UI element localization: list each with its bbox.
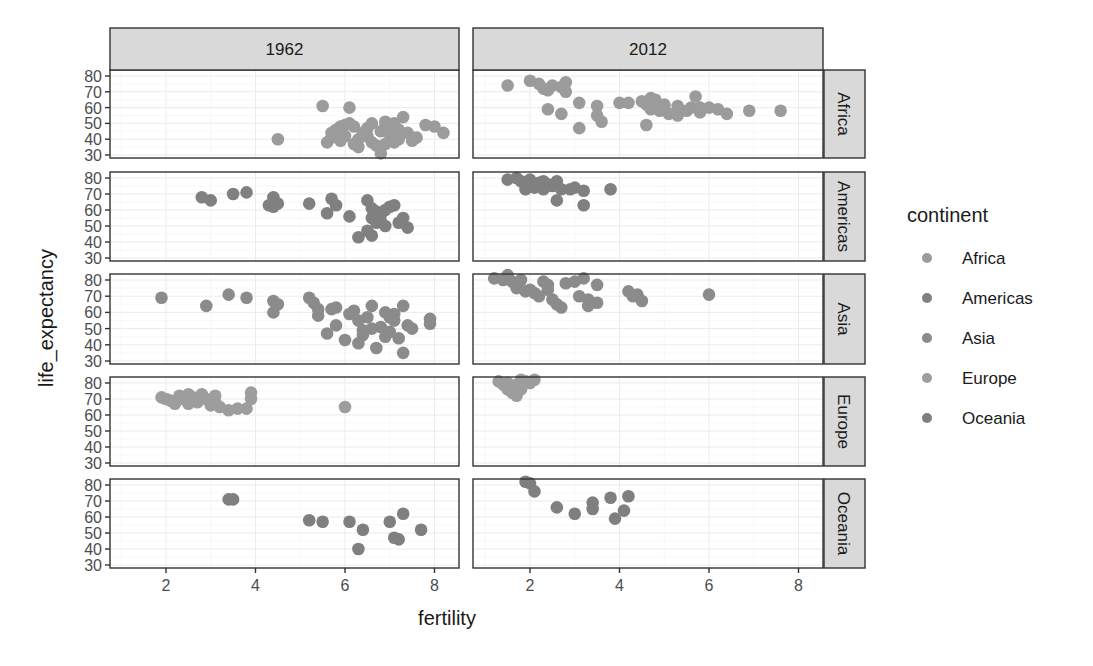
column-strip-2012: 2012 [473, 28, 823, 70]
data-point [703, 288, 716, 301]
data-point [348, 304, 361, 317]
data-point [555, 108, 568, 121]
legend-key-dot-icon [922, 293, 932, 303]
data-point [515, 383, 528, 396]
legend-item-americas: Americas [922, 289, 1033, 308]
data-point [227, 188, 240, 201]
y-tick-label: 80 [84, 68, 102, 85]
data-point [343, 516, 356, 529]
data-point [330, 301, 343, 314]
panel-1962-europe [110, 377, 459, 466]
row-strip-europe: Europe [824, 377, 865, 466]
y-tick-label: 50 [84, 423, 102, 440]
data-point [524, 283, 537, 296]
data-point [573, 97, 586, 110]
legend-item-oceania: Oceania [922, 409, 1026, 428]
y-tick-label: 80 [84, 375, 102, 392]
data-point [519, 183, 532, 196]
x-tick-label: 2 [526, 577, 535, 594]
data-point [604, 492, 617, 505]
data-point [339, 401, 352, 414]
data-point [155, 292, 168, 305]
data-point [415, 524, 428, 537]
x-axis-1962: 2468 [162, 568, 440, 594]
data-point [680, 104, 693, 117]
data-point [370, 217, 383, 230]
x-tick-label: 6 [341, 577, 350, 594]
data-point [577, 185, 590, 198]
data-point [551, 194, 564, 207]
data-point [577, 199, 590, 212]
y-tick-label: 40 [84, 439, 102, 456]
y-tick-label: 30 [84, 557, 102, 574]
y-axis-americas: 304050607080 [84, 170, 110, 267]
data-point [774, 104, 787, 117]
data-point [267, 306, 280, 319]
y-tick-label: 70 [84, 391, 102, 408]
legend-label: Africa [962, 249, 1006, 268]
panels [110, 70, 823, 568]
data-point [240, 186, 253, 199]
legend-key-dot-icon [922, 413, 932, 423]
data-point [204, 194, 217, 207]
y-tick-label: 70 [84, 84, 102, 101]
data-point [392, 332, 405, 345]
data-point [591, 279, 604, 292]
data-point [397, 508, 410, 521]
data-point [312, 309, 325, 322]
data-point [227, 493, 240, 506]
data-point [222, 288, 235, 301]
y-tick-label: 40 [84, 541, 102, 558]
data-point [330, 199, 343, 212]
data-point [622, 490, 635, 503]
data-point [622, 97, 635, 110]
y-tick-label: 60 [84, 304, 102, 321]
data-point [640, 119, 653, 132]
data-point [366, 117, 379, 130]
data-point [743, 104, 756, 117]
data-point [542, 103, 555, 116]
y-tick-label: 60 [84, 509, 102, 526]
row-strip-label: Africa [834, 92, 853, 136]
y-tick-label: 50 [84, 321, 102, 338]
data-point [537, 183, 550, 196]
data-point [303, 514, 316, 527]
data-point [240, 292, 253, 305]
data-point [410, 131, 423, 144]
data-point [397, 111, 410, 124]
faceted-scatter-chart: 19622012AfricaAmericasAsiaEuropeOceania … [0, 0, 1093, 666]
legend-key-dot-icon [922, 333, 932, 343]
data-point [542, 283, 555, 296]
y-tick-label: 70 [84, 186, 102, 203]
data-point [689, 90, 702, 103]
data-point [366, 229, 379, 242]
data-point [658, 98, 671, 111]
row-strip-americas: Americas [824, 172, 865, 261]
data-point [361, 311, 374, 324]
row-strip-label: Oceania [834, 492, 853, 556]
row-strip-oceania: Oceania [824, 479, 865, 568]
data-point [424, 317, 437, 330]
data-point [555, 301, 568, 314]
data-point [343, 101, 356, 114]
data-point [272, 133, 285, 146]
y-tick-label: 30 [84, 455, 102, 472]
data-point [392, 533, 405, 546]
data-point [204, 399, 217, 412]
y-tick-label: 50 [84, 115, 102, 132]
data-point [343, 210, 356, 223]
x-tick-label: 8 [794, 577, 803, 594]
legend-item-asia: Asia [922, 329, 996, 348]
data-point [245, 386, 258, 399]
data-point [388, 199, 401, 212]
data-point [388, 308, 401, 321]
column-strip-label: 2012 [629, 40, 667, 59]
data-point [595, 116, 608, 129]
x-axis-2012: 2468 [526, 568, 804, 594]
y-tick-label: 70 [84, 493, 102, 510]
y-tick-label: 40 [84, 337, 102, 354]
data-point [401, 221, 414, 234]
data-point [357, 329, 370, 342]
y-tick-label: 50 [84, 525, 102, 542]
column-strip-label: 1962 [266, 40, 304, 59]
